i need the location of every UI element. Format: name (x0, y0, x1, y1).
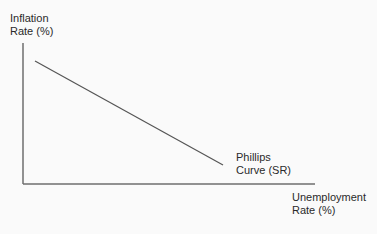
curve-label: Phillips Curve (SR) (236, 151, 291, 177)
y-axis-label-line2: Rate (%) (10, 25, 53, 38)
phillips-curve-line (35, 61, 223, 165)
x-axis-label-line2: Rate (%) (292, 204, 366, 217)
curve-label-line2: Curve (SR) (236, 164, 291, 177)
curve-label-line1: Phillips (236, 151, 291, 164)
x-axis-label-line1: Unemployment (292, 191, 366, 204)
y-axis-label: Inflation Rate (%) (10, 12, 53, 38)
y-axis-label-line1: Inflation (10, 12, 53, 25)
x-axis-label: Unemployment Rate (%) (292, 191, 366, 217)
